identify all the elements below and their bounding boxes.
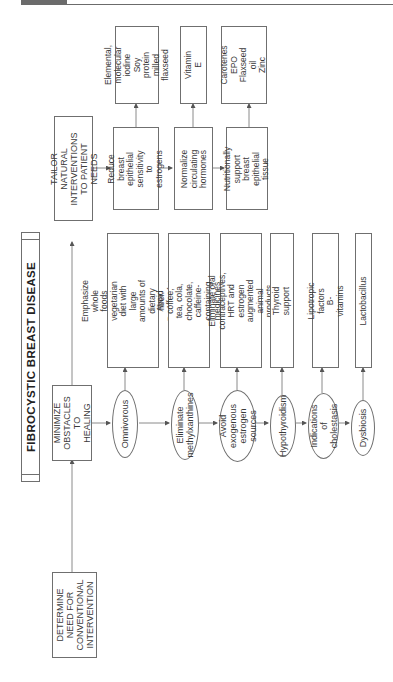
action-box-thyroid: Thyroid support	[270, 233, 294, 368]
condition-oval-estrogen: Avoid exogenous estrogen sources	[219, 390, 256, 462]
goal-box-reduce-sensitivity: Reduce breast epithelial sensitivity to …	[113, 127, 159, 210]
condition-oval-cholestasis: Indications of cholestasis	[308, 393, 339, 459]
action-box-caffeine: Avoid coffee, tea, cola, chocolate, caff…	[168, 233, 210, 368]
step-tailor-box: TAILOR NATURAL INTERVENTIONS TO PATIENT …	[54, 116, 93, 221]
condition-oval-methylxanthines: Eliminate methylxanthines	[171, 390, 199, 460]
agent-box-carotenes: Carotenes EPO Flaxseed oil Zinc	[221, 26, 267, 104]
condition-oval-hypothyroidism: Hypothyroidism	[270, 395, 296, 457]
action-box-lipotropic: Lipotropic factors B-vitamins	[312, 233, 339, 368]
step-minimize-label: MINIMIZE OBSTACLES TO HEALING	[52, 396, 92, 449]
step-tailor-label: TAILOR NATURAL INTERVENTIONS TO PATIENT …	[48, 132, 98, 205]
diagram-title: FIBROCYSTIC BREAST DISEASE	[24, 262, 37, 452]
condition-oval-omnivorous: Omnivorous	[112, 390, 138, 458]
agent-box-vitamin-e: Vitamin E	[180, 26, 207, 104]
diagram-title-box: FIBROCYSTIC BREAST DISEASE	[21, 232, 40, 482]
action-box-contraceptives: Eliminate oral contraceptives, HRT and e…	[220, 233, 262, 368]
action-box-lactobacillus: Lactobacillus	[355, 233, 372, 368]
goal-box-nutritional-support: Nutritionally support breast epithelial …	[226, 127, 268, 210]
goal-box-normalize-hormones: Normalize circulating hormones	[174, 127, 213, 210]
step-determine-label: DETERMINE NEED FOR CONVENTIONAL INTERVEN…	[54, 579, 94, 650]
step-minimize-box: MINIMIZE OBSTACLES TO HEALING	[52, 385, 92, 461]
step-determine-box: DETERMINE NEED FOR CONVENTIONAL INTERVEN…	[52, 572, 97, 658]
action-box-diet: Emphasize whole foods vegetarian diet wi…	[107, 233, 159, 368]
condition-oval-dysbiosis: Dysbiosis	[351, 400, 375, 456]
agent-box-iodine-soy: Elemental, molecular iodine Soy protein …	[115, 26, 159, 104]
